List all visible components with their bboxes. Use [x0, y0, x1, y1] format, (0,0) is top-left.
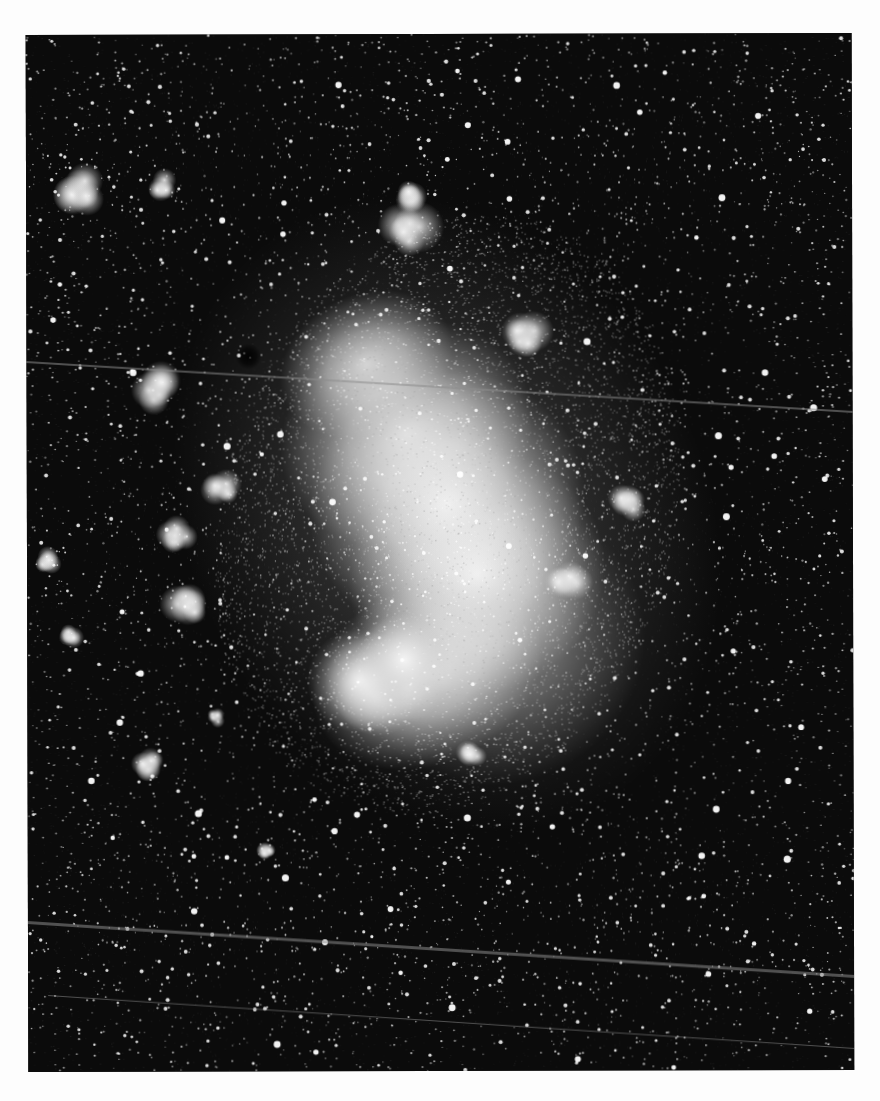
page — [0, 0, 880, 1101]
galaxy-photograph — [26, 33, 855, 1072]
star-field — [26, 33, 855, 1072]
